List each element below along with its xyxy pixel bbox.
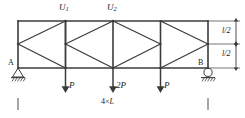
load-label-2p: 2P [116,81,126,90]
diagonal-3b [113,44,161,68]
joint-right-mid [207,43,209,45]
support-b-roller [201,68,216,81]
support-b-hatch [202,78,216,82]
dimension-label-lower: l/2 [222,50,230,58]
diagonal-3a [113,21,161,44]
support-a-hatch [12,78,26,82]
joint-mid-3 [159,43,161,45]
span-label: 4×L [101,98,114,106]
joint-top-u2 [112,20,114,22]
truss-drawing-svg [0,0,245,118]
diagonal-4a [161,21,209,44]
node-label-u2: U2 [107,3,117,13]
support-label-b: B [198,59,203,67]
diagonal-2b [66,44,114,68]
diagonal-1a [18,21,66,44]
diagonal-2a [66,21,114,44]
support-a-pin [11,68,26,81]
diagonal-1b [18,44,66,68]
joint-top-u1 [64,20,66,22]
joint-left-mid [17,43,19,45]
joint-mid-1 [64,43,66,45]
node-label-u1: U1 [59,3,69,13]
load-label-p1: P [69,81,75,90]
load-label-p2: P [164,81,170,90]
support-label-a: A [8,59,14,67]
truss-verticals [18,21,208,68]
support-a-triangle [13,68,24,77]
truss-diagram: U1 U2 A B P 2P P l/2 l/2 4×L [0,0,245,118]
load-arrows [66,68,161,88]
dimension-label-upper: l/2 [222,27,230,35]
support-b-circle [204,68,212,76]
